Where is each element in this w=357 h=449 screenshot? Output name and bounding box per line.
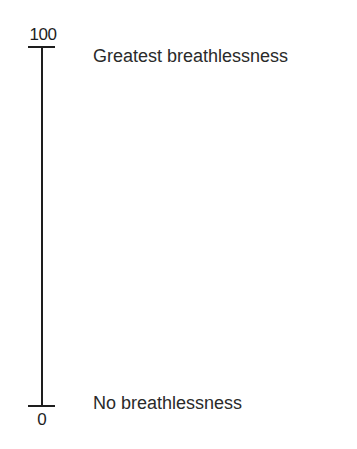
min-tick [28, 405, 55, 407]
max-value-label: 100 [27, 26, 59, 43]
scale-axis-line [41, 46, 43, 407]
max-anchor-label: Greatest breathlessness [93, 46, 288, 66]
min-anchor-label: No breathlessness [93, 393, 242, 413]
breathlessness-scale: 100 0 Greatest breathlessness No breathl… [0, 0, 357, 449]
min-value-label: 0 [34, 411, 50, 428]
